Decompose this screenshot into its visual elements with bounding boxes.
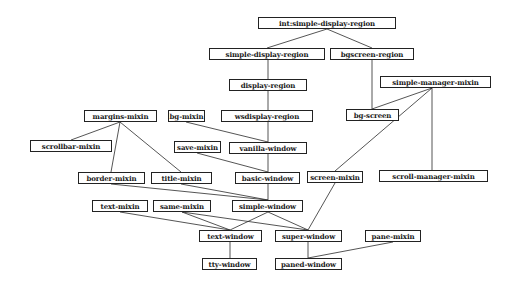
node-screen-mixin: screen-mixin [307, 171, 363, 183]
edge-screen-mixin-to-super-window [308, 183, 335, 230]
node-simple-display-region: simple-display-region [209, 48, 325, 60]
edge-simple-manager-mixin-to-screen-mixin [335, 88, 432, 171]
node-bg-mixin: bg-mixin [168, 110, 205, 122]
edge-bg-mixin-to-vanilla-window [186, 122, 268, 142]
node-title-mixin: title-mixin [151, 172, 212, 184]
node-border-mixin: border-mixin [78, 172, 145, 184]
node-bg-screen: bg-screen [346, 109, 399, 121]
node-int-simple-display-region: int:simple-display-region [258, 17, 396, 29]
node-bgscreen-region: bgscreen-region [330, 48, 414, 60]
node-scroll-manager-mixin: scroll-manager-mixin [379, 170, 488, 182]
edge-text-mixin-to-text-window [120, 212, 230, 230]
node-display-region: display-region [229, 79, 307, 91]
node-text-window: text-window [199, 230, 262, 242]
node-simple-manager-mixin: simple-manager-mixin [380, 76, 491, 88]
node-simple-window: simple-window [232, 200, 303, 212]
node-text-mixin: text-mixin [92, 200, 148, 212]
edge-title-mixin-to-simple-window [181, 184, 268, 200]
node-vanilla-window: vanilla-window [229, 142, 307, 154]
node-wsdisplay-region: wsdisplay-region [221, 110, 313, 122]
node-basic-window: basic-window [235, 172, 300, 184]
edge-int-simple-display-region-to-simple-display-region [267, 29, 327, 48]
node-super-window: super-window [275, 230, 342, 242]
class-hierarchy-diagram: int:simple-display-regionsimple-display-… [0, 0, 515, 290]
node-same-mixin: same-mixin [153, 200, 211, 212]
edge-same-mixin-to-text-window [182, 212, 230, 230]
node-paned-window: paned-window [275, 258, 342, 270]
edge-margins-mixin-to-title-mixin [120, 122, 181, 172]
edge-same-mixin-to-super-window [182, 212, 308, 230]
node-scrollbar-mixin: scrollbar-mixin [30, 140, 112, 152]
edge-int-simple-display-region-to-bgscreen-region [327, 29, 372, 48]
node-margins-mixin: margins-mixin [84, 110, 157, 122]
edge-simple-window-to-text-window [230, 212, 268, 230]
edge-border-mixin-to-simple-window [111, 184, 268, 200]
edge-simple-manager-mixin-to-bg-screen [372, 88, 432, 109]
edge-save-mixin-to-basic-window [197, 153, 268, 172]
edge-margins-mixin-to-border-mixin [111, 122, 120, 172]
edge-pane-mixin-to-paned-window [308, 242, 393, 258]
node-save-mixin: save-mixin [174, 141, 221, 153]
node-pane-mixin: pane-mixin [365, 230, 421, 242]
node-tty-window: tty-window [202, 258, 257, 270]
edge-margins-mixin-to-scrollbar-mixin [71, 122, 120, 140]
